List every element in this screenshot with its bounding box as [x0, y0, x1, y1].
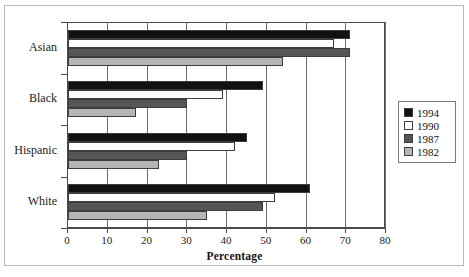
bar-white-1987	[68, 202, 263, 211]
x-tick-label: 40	[211, 234, 241, 246]
legend-item-1994: 1994	[404, 106, 451, 119]
x-tick	[67, 228, 68, 233]
y-tick	[61, 125, 67, 126]
gridline	[385, 22, 386, 228]
bar-asian-1982	[68, 57, 283, 66]
legend-item-1990: 1990	[404, 119, 451, 132]
bar-asian-1990	[68, 39, 334, 48]
y-tick	[61, 22, 67, 23]
x-tick	[226, 228, 227, 233]
legend-swatch-icon	[404, 134, 413, 143]
bar-asian-1987	[68, 48, 350, 57]
category-label-white: White	[0, 195, 57, 208]
x-axis-title: Percentage	[0, 250, 469, 262]
x-tick-label: 20	[132, 234, 162, 246]
x-tick	[266, 228, 267, 233]
x-tick-label: 80	[370, 234, 400, 246]
x-tick-label: 60	[291, 234, 321, 246]
x-tick-label: 30	[171, 234, 201, 246]
bar-hispanic-1987	[68, 151, 187, 160]
plot-area	[67, 22, 385, 228]
bar-black-1987	[68, 99, 187, 108]
category-label-black: Black	[0, 92, 57, 105]
legend-swatch-icon	[404, 121, 413, 130]
bar-white-1990	[68, 193, 275, 202]
legend-item-1987: 1987	[404, 132, 451, 145]
x-tick	[345, 228, 346, 233]
legend-label: 1987	[417, 133, 439, 145]
x-tick-label: 10	[92, 234, 122, 246]
bar-white-1994	[68, 184, 310, 193]
legend: 1994199019871982	[398, 101, 456, 163]
y-tick	[61, 74, 67, 75]
x-tick	[107, 228, 108, 233]
legend-label: 1994	[417, 107, 439, 119]
x-tick	[186, 228, 187, 233]
x-tick-label: 50	[251, 234, 281, 246]
category-label-asian: Asian	[0, 41, 57, 54]
y-tick	[61, 228, 67, 229]
bar-black-1990	[68, 90, 223, 99]
bar-black-1982	[68, 108, 136, 117]
bar-black-1994	[68, 81, 263, 90]
legend-swatch-icon	[404, 147, 413, 156]
x-tick	[385, 228, 386, 233]
x-tick	[306, 228, 307, 233]
legend-label: 1982	[417, 146, 439, 158]
bar-hispanic-1990	[68, 142, 235, 151]
bar-white-1982	[68, 211, 207, 220]
legend-swatch-icon	[404, 108, 413, 117]
chart-figure: 01020304050607080 AsianBlackHispanicWhit…	[0, 0, 469, 277]
bar-hispanic-1982	[68, 160, 159, 169]
legend-item-1982: 1982	[404, 145, 451, 158]
bar-hispanic-1994	[68, 133, 247, 142]
category-label-hispanic: Hispanic	[0, 144, 57, 157]
x-tick-label: 70	[330, 234, 360, 246]
y-tick	[61, 177, 67, 178]
bar-asian-1994	[68, 30, 350, 39]
legend-label: 1990	[417, 120, 439, 132]
x-tick	[147, 228, 148, 233]
x-tick-label: 0	[52, 234, 82, 246]
